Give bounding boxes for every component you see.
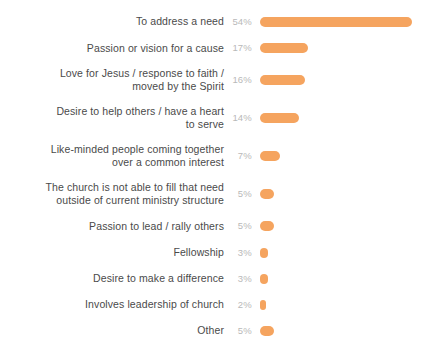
category-label: Love for Jesus / response to faith / mov… bbox=[0, 67, 224, 94]
bar-cell bbox=[256, 274, 431, 284]
bar-cell bbox=[256, 300, 431, 310]
bar bbox=[260, 151, 280, 161]
category-label: Passion to lead / rally others bbox=[0, 220, 224, 234]
chart-row: Fellowship3% bbox=[0, 240, 431, 266]
chart-row: Passion or vision for a cause17% bbox=[0, 35, 431, 61]
value-label: 7% bbox=[224, 150, 256, 162]
bar bbox=[260, 326, 274, 336]
bar-cell bbox=[256, 113, 431, 123]
chart-row: To address a need54% bbox=[0, 9, 431, 35]
bar bbox=[260, 43, 308, 53]
category-label: Like-minded people coming together over … bbox=[0, 143, 224, 170]
category-label: Desire to help others / have a heart to … bbox=[0, 105, 224, 132]
chart-row: Involves leadership of church2% bbox=[0, 292, 431, 318]
value-label: 5% bbox=[224, 220, 256, 232]
chart-row: Passion to lead / rally others5% bbox=[0, 213, 431, 239]
bar bbox=[260, 221, 274, 231]
chart-row: Love for Jesus / response to faith / mov… bbox=[0, 61, 431, 99]
value-label: 3% bbox=[224, 273, 256, 285]
value-label: 16% bbox=[224, 74, 256, 86]
chart-row: The church is not able to fill that need… bbox=[0, 175, 431, 213]
category-label: To address a need bbox=[0, 15, 224, 29]
category-label: The church is not able to fill that need… bbox=[0, 181, 224, 208]
value-label: 17% bbox=[224, 42, 256, 54]
chart-row: Desire to help others / have a heart to … bbox=[0, 99, 431, 137]
bar-cell bbox=[256, 17, 431, 27]
bar-cell bbox=[256, 189, 431, 199]
bar-cell bbox=[256, 248, 431, 258]
bar-cell bbox=[256, 75, 431, 85]
chart-row: Other5% bbox=[0, 318, 431, 344]
horizontal-bar-chart: To address a need54%Passion or vision fo… bbox=[0, 0, 431, 352]
bar-cell bbox=[256, 221, 431, 231]
value-label: 14% bbox=[224, 112, 256, 124]
value-label: 5% bbox=[224, 325, 256, 337]
bar-cell bbox=[256, 326, 431, 336]
bar-cell bbox=[256, 151, 431, 161]
bar-cell bbox=[256, 43, 431, 53]
value-label: 3% bbox=[224, 247, 256, 259]
bar bbox=[260, 75, 305, 85]
bar bbox=[260, 113, 299, 123]
value-label: 2% bbox=[224, 299, 256, 311]
bar bbox=[260, 274, 268, 284]
chart-row: Like-minded people coming together over … bbox=[0, 137, 431, 175]
category-label: Involves leadership of church bbox=[0, 298, 224, 312]
bar bbox=[260, 189, 274, 199]
value-label: 54% bbox=[224, 16, 256, 28]
category-label: Other bbox=[0, 324, 224, 338]
category-label: Passion or vision for a cause bbox=[0, 42, 224, 56]
category-label: Fellowship bbox=[0, 246, 224, 260]
bar bbox=[260, 17, 412, 27]
chart-row: Desire to make a difference3% bbox=[0, 266, 431, 292]
category-label: Desire to make a difference bbox=[0, 272, 224, 286]
bar bbox=[260, 248, 268, 258]
bar bbox=[260, 300, 266, 310]
value-label: 5% bbox=[224, 188, 256, 200]
